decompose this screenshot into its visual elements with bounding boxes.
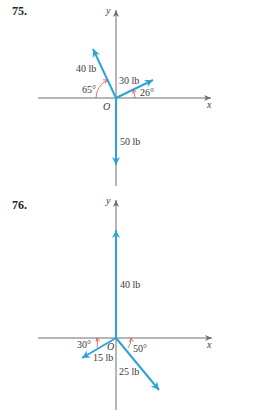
origin-label: O <box>103 101 110 112</box>
angle-label-30: 30° <box>77 339 91 350</box>
angle-label-65: 65° <box>82 84 96 95</box>
angle-label-50: 50° <box>133 343 147 354</box>
vector-label-40lb: 40 lb <box>76 63 96 74</box>
vector-40lb <box>93 49 116 98</box>
problem-76: 76. x y O 40 lb 15 lb 25 lb 30° <box>0 195 260 410</box>
force-diagram: x y O 40 lb 15 lb 25 lb 30° 50° <box>0 195 260 410</box>
vector-label-40lb: 40 lb <box>120 279 140 290</box>
angle-arc-50 <box>128 338 131 348</box>
vector-label-15lb: 15 lb <box>93 352 113 363</box>
x-axis-label: x <box>206 339 212 350</box>
angle-arc-65 <box>96 80 108 98</box>
angle-arc-30 <box>97 338 98 348</box>
problem-75: 75. x y O 40 lb 30 lb 50 lb 65° <box>0 0 260 195</box>
vector-label-30lb: 30 lb <box>119 75 139 86</box>
angle-label-26: 26° <box>140 87 154 98</box>
x-axis-label: x <box>206 99 212 110</box>
y-axis-label: y <box>105 5 111 16</box>
angle-arc-26 <box>133 90 135 99</box>
vector-label-50lb: 50 lb <box>120 136 140 147</box>
y-axis-label: y <box>105 195 111 206</box>
force-diagram: x y O 40 lb 30 lb 50 lb 65° 26° <box>0 0 260 195</box>
vector-label-25lb: 25 lb <box>119 366 139 377</box>
